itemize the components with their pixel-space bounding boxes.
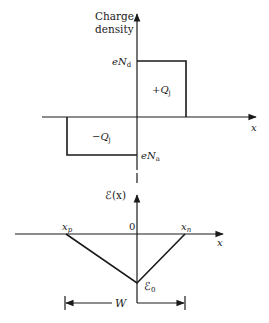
charge-density-label-line1: Charge — [95, 10, 134, 22]
pn-junction-diagram: Charge density eNd eNa +Qj −Qj x ℰ(x) — [0, 0, 269, 323]
field-y-axis-label: ℰ(x) — [105, 189, 126, 201]
end-level-label: eNd — [112, 56, 132, 69]
charge-density-plot: Charge density eNd eNa +Qj −Qj x — [42, 10, 257, 170]
ena-level-label: eNa — [141, 150, 160, 163]
field-x-axis-label: x — [217, 237, 223, 248]
xn-label: xn — [181, 221, 192, 234]
charge-x-axis-label: x — [251, 122, 257, 133]
negative-charge-label: −Qj — [92, 131, 111, 144]
depletion-width-label: W — [115, 297, 128, 310]
electric-field-plot: ℰ(x) 0 xp xn x ℰ0 W — [15, 189, 223, 310]
origin-label: 0 — [129, 221, 135, 232]
peak-field-label: ℰ0 — [144, 280, 155, 294]
positive-charge-label: +Qj — [152, 84, 171, 97]
field-profile — [66, 234, 185, 283]
xp-label: xp — [62, 221, 73, 234]
charge-density-label-line2: density — [95, 23, 134, 35]
